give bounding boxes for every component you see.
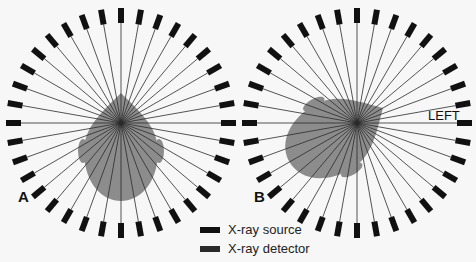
x-ray-element [337, 221, 340, 236]
x-ray-element [47, 200, 57, 211]
x-ray-element [269, 187, 280, 197]
x-ray-element [257, 173, 270, 181]
x-ray-element [257, 66, 270, 74]
legend: X-ray source X-ray detector [200, 220, 310, 258]
x-ray-element [155, 217, 160, 231]
panel-a-scanner-ring [6, 8, 236, 238]
x-ray-element [8, 103, 23, 106]
x-ray-element [33, 187, 44, 197]
x-ray-element [21, 66, 34, 74]
x-ray-element [283, 200, 293, 211]
legend-label: X-ray source [228, 222, 302, 237]
x-ray-element [269, 49, 280, 59]
x-ray-element [318, 15, 323, 29]
x-ray-element [138, 10, 141, 25]
x-ray-element [8, 140, 23, 143]
x-ray-element [208, 173, 221, 181]
x-ray-element [185, 200, 195, 211]
x-ray-element [421, 200, 431, 211]
x-ray-element [434, 187, 445, 197]
legend-item-detector: X-ray detector [200, 239, 310, 258]
x-ray-element [215, 84, 229, 89]
x-ray-element [374, 221, 377, 236]
x-ray-element [101, 10, 104, 25]
x-ray-element [407, 210, 415, 223]
x-ray-element [33, 49, 44, 59]
x-ray-element [101, 221, 104, 236]
x-ray-element [391, 15, 396, 29]
x-ray-element [155, 15, 160, 29]
x-ray-element [215, 157, 229, 162]
x-ray-element [249, 84, 263, 89]
x-ray-element [185, 35, 195, 46]
x-ray-element [171, 23, 179, 36]
detector-swatch-icon [200, 246, 220, 252]
x-ray-element [219, 140, 234, 143]
x-ray-element [208, 66, 221, 74]
x-ray-element [138, 221, 141, 236]
x-ray-element [13, 157, 27, 162]
x-ray-element [198, 187, 209, 197]
x-ray-element [64, 210, 72, 223]
x-ray-element [13, 84, 27, 89]
x-ray-element [21, 173, 34, 181]
x-ray-element [244, 140, 259, 143]
x-ray-element [198, 49, 209, 59]
x-ray-element [82, 217, 87, 231]
x-ray-element [421, 35, 431, 46]
x-ray-element [244, 103, 259, 106]
ct-diagram: A B LEFT X-ray source X-ray detector [0, 0, 476, 262]
x-ray-element [374, 10, 377, 25]
x-ray-element [444, 66, 457, 74]
source-swatch-icon [200, 227, 220, 233]
x-ray-element [407, 23, 415, 36]
x-ray-element [82, 15, 87, 29]
x-ray-element [337, 10, 340, 25]
x-ray-element [64, 23, 72, 36]
x-ray-element [283, 35, 293, 46]
panel-a-label: A [18, 188, 29, 205]
x-ray-element [451, 157, 465, 162]
x-ray-element [300, 23, 308, 36]
x-ray-element [318, 217, 323, 231]
x-ray-element [219, 103, 234, 106]
left-side-annotation: LEFT [428, 108, 460, 123]
x-ray-element [444, 173, 457, 181]
x-ray-element [249, 157, 263, 162]
legend-label: X-ray detector [228, 241, 310, 256]
panel-b-label: B [254, 188, 265, 205]
legend-item-source: X-ray source [200, 220, 310, 239]
x-ray-element [455, 140, 470, 143]
x-ray-element [455, 103, 470, 106]
x-ray-element [451, 84, 465, 89]
x-ray-element [171, 210, 179, 223]
x-ray-element [391, 217, 396, 231]
panel-b-scanner-ring [242, 8, 472, 238]
x-ray-element [434, 49, 445, 59]
x-ray-element [47, 35, 57, 46]
